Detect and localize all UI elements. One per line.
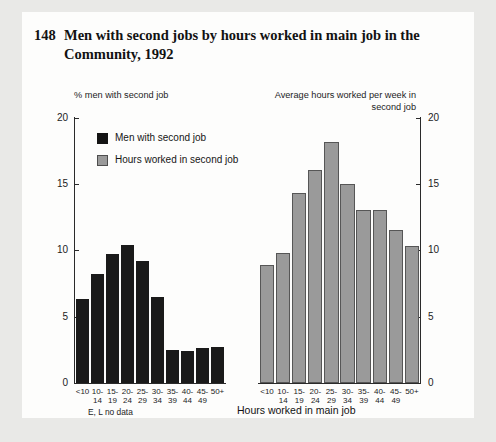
bar[interactable] [276, 253, 290, 383]
right-axis-tick-label: 0 [428, 377, 448, 388]
x-axis-title: Hours worked in main job [237, 404, 355, 416]
figure-card: 148Men with second jobs by hours worked … [22, 12, 474, 418]
right-axis-tick-label: 10 [428, 244, 448, 255]
right-panel-baseline [258, 383, 421, 384]
x-axis-tick-label: 50+ [401, 387, 423, 396]
right-bar-panel [259, 117, 420, 383]
left-axis-tick-label: 5 [48, 311, 68, 322]
bar[interactable] [389, 230, 403, 383]
left-axis-tick-label: 10 [48, 244, 68, 255]
left-bar-panel [75, 117, 225, 383]
left-axis-tick-label: 0 [48, 377, 68, 388]
bar[interactable] [340, 184, 354, 384]
x-axis-tick-label: 50+ [207, 387, 228, 396]
bar[interactable] [292, 193, 306, 383]
bar[interactable] [91, 274, 104, 383]
right-axis-tick-label: 15 [428, 178, 448, 189]
bar[interactable] [373, 210, 387, 383]
bar[interactable] [324, 142, 338, 383]
chart-plot-area: % men with second job Average hours work… [22, 12, 474, 418]
bar[interactable] [196, 348, 209, 383]
left-axis-caption: % men with second job [74, 90, 168, 102]
bar[interactable] [166, 350, 179, 383]
bar[interactable] [121, 245, 134, 383]
bar[interactable] [181, 351, 194, 383]
left-axis-tick-label: 15 [48, 178, 68, 189]
right-axis-tick-label: 5 [428, 311, 448, 322]
bar[interactable] [405, 246, 419, 383]
bar[interactable] [76, 299, 89, 383]
chart-footnote: E, L no data [88, 407, 133, 417]
right-axis-tick-label: 20 [428, 112, 448, 123]
bar[interactable] [136, 261, 149, 383]
bar[interactable] [211, 347, 224, 383]
left-panel-baseline [74, 383, 226, 384]
bar[interactable] [151, 297, 164, 383]
right-axis-caption: Average hours worked per week in second … [266, 90, 416, 113]
bar[interactable] [106, 254, 119, 383]
bar[interactable] [308, 170, 322, 383]
left-axis-tick-label: 20 [48, 112, 68, 123]
bar[interactable] [356, 210, 370, 383]
bar[interactable] [260, 265, 274, 383]
